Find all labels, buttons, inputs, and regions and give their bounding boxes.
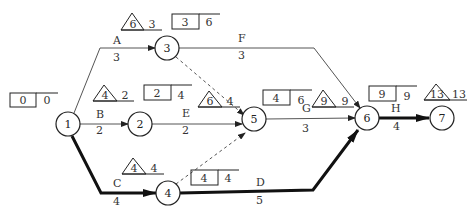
node-7: 7 (430, 106, 454, 130)
activity-h-name: H (391, 102, 401, 115)
activity-f-name: F (238, 32, 246, 45)
activity-e-duration: 2 (182, 124, 189, 137)
svg-text:9: 9 (379, 88, 386, 101)
svg-text:9: 9 (321, 95, 328, 108)
svg-text:9: 9 (342, 95, 349, 108)
early-time-node-2: 2 4 (144, 85, 192, 102)
node-5-label: 5 (251, 113, 258, 126)
svg-text:3: 3 (149, 18, 156, 31)
svg-text:2: 2 (122, 89, 129, 102)
svg-text:2: 2 (154, 87, 161, 100)
late-time-node-4: 4 4 (122, 158, 164, 175)
activity-d-name: D (256, 176, 265, 189)
svg-text:4: 4 (151, 162, 158, 175)
node-5: 5 (242, 107, 266, 131)
node-7-label: 7 (439, 112, 446, 125)
svg-text:6: 6 (298, 94, 305, 107)
activity-b-name: B (96, 108, 104, 121)
svg-text:6: 6 (206, 16, 213, 29)
activity-d: D 5 (180, 130, 358, 207)
node-2-label: 2 (137, 118, 144, 131)
svg-text:4: 4 (178, 89, 185, 102)
svg-text:0: 0 (20, 94, 27, 107)
late-time-node-2: 4 2 (93, 85, 134, 102)
activity-e-name: E (182, 107, 190, 120)
svg-text:9: 9 (404, 90, 411, 103)
early-time-node-4: 4 4 (191, 170, 239, 185)
svg-text:6: 6 (207, 95, 214, 108)
network-diagram: A 3 F 3 B 2 E 2 G 3 C 4 D 5 (0, 0, 473, 214)
activity-c-duration: 4 (113, 195, 120, 208)
early-time-node-6: 9 9 (369, 86, 417, 103)
svg-text:6: 6 (130, 18, 137, 31)
node-4-label: 4 (165, 187, 172, 200)
activity-d-duration: 5 (256, 194, 263, 207)
dummy-4-5 (176, 133, 245, 184)
svg-text:13: 13 (452, 88, 466, 101)
activity-c: C 4 (72, 136, 156, 208)
svg-text:0: 0 (44, 94, 51, 107)
svg-text:3: 3 (182, 16, 189, 29)
late-time-node-7: 13 13 (424, 84, 467, 101)
svg-text:4: 4 (131, 162, 138, 175)
node-3: 3 (155, 36, 179, 60)
activity-b-duration: 2 (96, 124, 103, 137)
svg-text:4: 4 (225, 172, 232, 185)
activity-g-duration: 3 (302, 122, 309, 135)
node-1-label: 1 (65, 118, 72, 131)
activity-h: H 4 (379, 102, 429, 133)
activity-h-duration: 4 (393, 120, 400, 133)
node-6-label: 6 (364, 112, 371, 125)
early-time-node-1: 0 0 (10, 93, 58, 107)
node-3-label: 3 (164, 42, 171, 55)
early-time-node-3: 3 6 (172, 14, 220, 29)
node-1: 1 (56, 112, 80, 136)
node-2: 2 (128, 112, 152, 136)
svg-text:13: 13 (430, 88, 444, 101)
svg-text:4: 4 (201, 172, 208, 185)
svg-text:4: 4 (102, 89, 109, 102)
svg-text:4: 4 (273, 92, 280, 105)
activity-e: E 2 (152, 107, 242, 137)
node-4: 4 (156, 181, 180, 205)
activity-c-name: C (113, 177, 121, 190)
activity-f-duration: 3 (238, 49, 245, 62)
late-time-node-3: 6 3 (121, 13, 162, 31)
activity-a-duration: 3 (113, 51, 120, 64)
activity-a-name: A (112, 34, 122, 47)
activity-b: B 2 (80, 108, 128, 137)
svg-text:4: 4 (227, 95, 234, 108)
node-6: 6 (355, 106, 379, 130)
